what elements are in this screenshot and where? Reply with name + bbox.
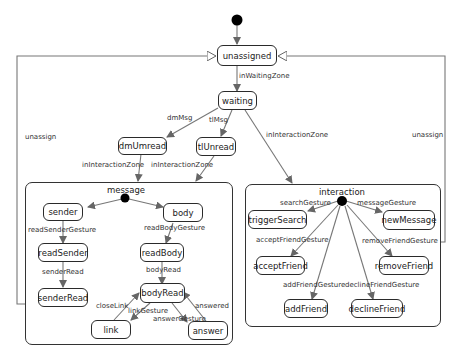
state-body[interactable]: body xyxy=(163,203,203,222)
state-triggerSearch[interactable]: triggerSearch xyxy=(248,210,307,229)
state-sender[interactable]: sender xyxy=(43,203,83,221)
state-newMessage[interactable]: newMessage xyxy=(383,210,435,230)
label-inInteractionZone-dm: inInteractionZone xyxy=(82,161,144,169)
label-removeFriendGesture: removeFriendGesture xyxy=(362,237,438,245)
interaction-title: interaction xyxy=(319,187,365,197)
transition-waiting-interaction xyxy=(245,110,292,183)
initial-node-icon xyxy=(232,15,243,26)
state-senderRead[interactable]: senderRead xyxy=(38,288,88,307)
label-bodyRead: bodyRead xyxy=(146,266,181,274)
label-searchGesture: searchGesture xyxy=(280,199,331,207)
label-inWaitingZone: inWaitingZone xyxy=(239,72,289,80)
label-closeLink: closeLink xyxy=(96,302,128,310)
state-link[interactable]: link xyxy=(91,320,131,339)
state-removeFriend[interactable]: removeFriend xyxy=(379,256,429,275)
state-declineFriend[interactable]: declineFriend xyxy=(351,299,403,318)
label-linkGesture: linkGesture xyxy=(128,307,168,315)
label-unassign-left: unassign xyxy=(25,133,56,141)
label-acceptFriendGesture: acceptFriendGesture xyxy=(256,236,329,244)
label-inInteractionZone-waiting: inInteractionZone xyxy=(266,131,328,139)
label-declineFriendGesture: declineFriendGesture xyxy=(345,281,419,289)
state-acceptFriend[interactable]: acceptFriend xyxy=(256,256,305,275)
state-readSender[interactable]: readSender xyxy=(38,243,88,262)
label-answerGesture: answerGesture xyxy=(153,315,206,323)
label-unassign-right: unassign xyxy=(412,131,443,139)
label-inInteractionZone-tl: inInteractionZone xyxy=(151,161,213,169)
state-answer[interactable]: answer xyxy=(188,321,228,340)
label-dmMsg: dmMsg xyxy=(167,114,192,122)
state-readBody[interactable]: readBody xyxy=(140,243,184,262)
label-readBodyGesture: readBodyGesture xyxy=(144,224,205,232)
label-answered: answered xyxy=(195,302,229,310)
state-addFriend[interactable]: addFriend xyxy=(284,299,328,318)
message-title: message xyxy=(107,185,145,195)
label-messageGesture: messageGesture xyxy=(357,199,416,207)
label-tlMsg: tlMsg xyxy=(209,116,228,124)
label-addFriendGesture: addFriendGesture xyxy=(283,281,345,289)
label-senderRead: senderRead xyxy=(42,268,84,276)
label-readSenderGesture: readSenderGesture xyxy=(28,226,96,234)
state-bodyRead[interactable]: bodyRead xyxy=(140,283,185,303)
state-tlUnread[interactable]: tlUnread xyxy=(196,137,236,156)
state-waiting[interactable]: waiting xyxy=(218,91,257,110)
state-dmUmread[interactable]: dmUmread xyxy=(118,137,167,155)
state-unassigned[interactable]: unassigned xyxy=(217,45,277,66)
